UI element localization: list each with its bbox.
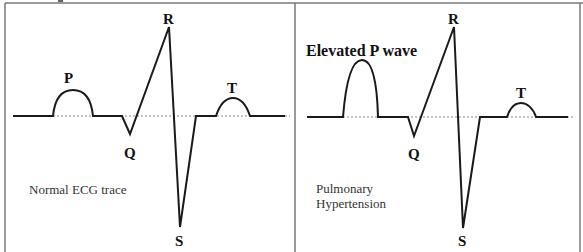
wave-label-s: S bbox=[458, 233, 466, 249]
annotation-elevated-p-wave: Elevated P wave bbox=[306, 42, 417, 59]
wave-label-r: R bbox=[448, 11, 459, 27]
wave-label-q: Q bbox=[124, 145, 136, 161]
cropped-text-fragment bbox=[58, 0, 63, 2]
panel-pulmonary-hypertension: Elevated P wave R Q S T Pulmonary Hypert… bbox=[306, 11, 575, 249]
wave-label-q: Q bbox=[408, 146, 420, 162]
wave-label-t: T bbox=[227, 80, 237, 96]
figure-borders bbox=[5, 3, 583, 252]
panel-caption-line-2: Hypertension bbox=[316, 196, 387, 211]
panel-caption-line-1: Pulmonary bbox=[316, 181, 374, 196]
wave-label-p: P bbox=[64, 70, 73, 86]
wave-label-t: T bbox=[516, 85, 526, 101]
wave-label-s: S bbox=[175, 233, 183, 249]
panel-caption: Normal ECG trace bbox=[29, 182, 127, 197]
panel-normal-ecg: P R Q S T Normal ECG trace bbox=[13, 11, 290, 249]
wave-label-r: R bbox=[163, 11, 174, 27]
ecg-comparison-figure: P R Q S T Normal ECG trace Elevated P wa… bbox=[0, 0, 583, 252]
ecg-trace-normal bbox=[13, 27, 285, 227]
